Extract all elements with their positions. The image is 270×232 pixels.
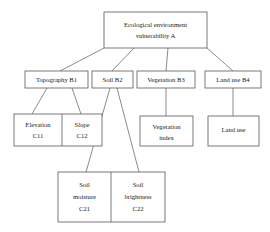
node-b3-label: Vegetation B3 [147, 76, 185, 83]
connector-a-to-b3 [166, 48, 168, 71]
node-b2[interactable]: Soil B2 [92, 71, 133, 88]
tree-svg-canvas: Ecological environment vulnerability A T… [0, 0, 270, 232]
node-vegetation-index-line1: Vegetation [152, 123, 181, 130]
node-pair-elevation-slope-box [14, 114, 102, 146]
node-pair-soil-moisture-brightness[interactable]: Soil moisture C21 Soil brightness C22 [58, 172, 165, 222]
node-c12-line2: C12 [77, 132, 88, 139]
node-b4-label: Land use B4 [216, 76, 250, 83]
node-b2-label: Soil B2 [103, 76, 123, 83]
node-c22-line3: C22 [133, 205, 144, 212]
connector-b2-to-c22 [117, 88, 139, 172]
connector-a-to-b1 [60, 48, 104, 71]
connector-a-to-b4 [207, 48, 233, 71]
node-root-a-line2: vulnerability A [136, 32, 176, 39]
node-b4[interactable]: Land use B4 [205, 71, 261, 88]
node-pair-elevation-slope[interactable]: Elevation C11 Slope C12 [14, 114, 102, 146]
connector-b1-to-c12 [72, 88, 81, 114]
node-c21-line2: moisture [73, 193, 96, 200]
node-c12-line1: Slope [74, 121, 89, 128]
node-vegetation-index[interactable]: Vegetation index [140, 116, 193, 146]
connector-a-to-b2 [112, 48, 134, 71]
node-land-use[interactable]: Land use [208, 116, 259, 146]
node-c21-line3: C21 [79, 205, 90, 212]
connector-group-b1 [32, 88, 81, 114]
node-b3[interactable]: Vegetation B3 [137, 71, 195, 88]
node-root-a[interactable]: Ecological environment vulnerability A [104, 12, 207, 48]
node-c21-line1: Soil [79, 181, 90, 188]
node-b1-label: Topography B1 [36, 76, 77, 83]
hierarchy-diagram: Ecological environment vulnerability A T… [0, 0, 270, 232]
node-root-a-line1: Ecological environment [124, 21, 187, 28]
node-c22-line2: brightness [124, 193, 152, 200]
node-c11-line1: Elevation [25, 121, 51, 128]
connector-group-b3-b4 [166, 88, 233, 116]
node-c11-line2: C11 [33, 132, 44, 139]
node-b1[interactable]: Topography B1 [25, 71, 88, 88]
node-vegetation-index-line2: index [159, 134, 174, 141]
node-land-use-line1: Land use [222, 126, 246, 133]
node-vegetation-index-box [140, 116, 193, 146]
node-c22-line1: Soil [133, 181, 144, 188]
connector-b1-to-c11 [32, 88, 47, 114]
connector-group-root [60, 48, 233, 71]
node-root-a-box [104, 12, 207, 48]
